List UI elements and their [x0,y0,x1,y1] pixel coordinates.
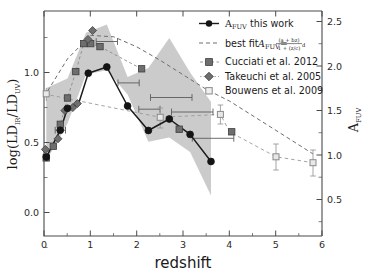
ytick-left-0: 0.0 [24,207,39,218]
ytick-right-1: 1.0 [327,150,342,161]
xtick-6: 6 [319,239,325,250]
chart-svg: 0 1 2 3 4 5 6 0.0 0.5 1.0 0.5 1.0 1.5 2.… [0,0,372,273]
ytick-right-0: 0.5 [327,194,342,205]
formula-denominator: 1 + (z/c) [278,45,300,51]
legend-label-cucciati: Cucciati et al. 2012 [225,56,318,67]
legend-label-best-fit: best fit [225,38,259,49]
ytick-right-3: 2.0 [327,61,342,72]
ytick-right-2: 1.5 [327,105,342,116]
xtick-0: 0 [41,239,47,250]
legend-marker-open-square [206,88,212,94]
xtick-5: 5 [273,239,279,250]
formula-numerator: (a + bz) [279,37,300,43]
legend-marker-filled-circle [206,20,212,26]
legend-label-bouwens: Bouwens et al. 2009 [225,85,323,96]
figure-canvas: 0 1 2 3 4 5 6 0.0 0.5 1.0 0.5 1.0 1.5 2.… [0,0,372,273]
xtick-4: 4 [226,239,232,250]
xtick-3: 3 [180,239,186,250]
ytick-left-1: 0.5 [24,137,39,148]
legend-label-takeuchi: Takeuchi et al. 2005 [224,71,321,82]
x-axis-title: redshift [155,254,212,272]
legend-marker-filled-square [206,59,213,66]
xtick-1: 1 [87,239,93,250]
ytick-right-4: 2.5 [327,16,342,27]
xtick-2: 2 [134,239,140,250]
ytick-left-2: 1.0 [24,67,39,78]
